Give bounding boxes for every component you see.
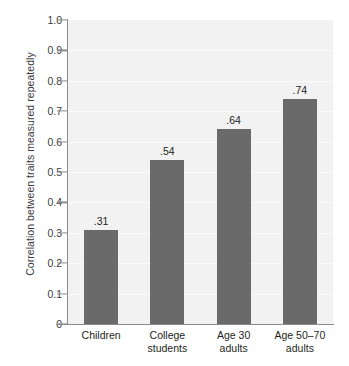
x-category-label-2: Age 30adults xyxy=(201,329,267,354)
x-category-label-1: Collegestudents xyxy=(134,329,200,354)
x-category-label-3: Age 50–70adults xyxy=(267,329,333,354)
gridline-9 xyxy=(68,50,333,51)
bar-value-label-1: .54 xyxy=(138,145,196,157)
bar-2 xyxy=(217,129,251,324)
y-tick-mark-10 xyxy=(57,19,68,20)
plot-area: .31.54.64.74 xyxy=(68,20,333,324)
bar-1 xyxy=(150,160,184,324)
bar-chart-figure: Correlation between traits measured repe… xyxy=(0,0,349,366)
bar-value-label-0: .31 xyxy=(72,215,130,227)
x-category-label-line: College xyxy=(134,329,200,342)
y-axis-title-container: Correlation between traits measured repe… xyxy=(0,0,24,330)
x-category-label-line: Age 30 xyxy=(201,329,267,342)
y-tick-mark-0 xyxy=(57,323,68,324)
x-category-label-line: Age 50–70 xyxy=(267,329,333,342)
x-category-label-line: Children xyxy=(68,329,134,342)
bar-3 xyxy=(283,99,317,324)
y-tick-mark-9 xyxy=(57,50,68,51)
x-category-label-0: Children xyxy=(68,329,134,342)
y-tick-mark-6 xyxy=(57,141,68,142)
y-tick-mark-2 xyxy=(57,263,68,264)
x-category-label-line: students xyxy=(134,342,200,355)
bar-value-label-3: .74 xyxy=(271,84,329,96)
x-axis-line xyxy=(56,324,334,325)
x-category-label-line: adults xyxy=(201,342,267,355)
x-category-label-line: adults xyxy=(267,342,333,355)
y-tick-mark-8 xyxy=(57,80,68,81)
y-tick-mark-4 xyxy=(57,202,68,203)
y-tick-mark-1 xyxy=(57,293,68,294)
gridline-8 xyxy=(68,81,333,82)
bar-0 xyxy=(84,230,118,324)
y-tick-mark-3 xyxy=(57,232,68,233)
y-tick-mark-5 xyxy=(57,171,68,172)
bar-value-label-2: .64 xyxy=(205,114,263,126)
y-tick-mark-7 xyxy=(57,111,68,112)
